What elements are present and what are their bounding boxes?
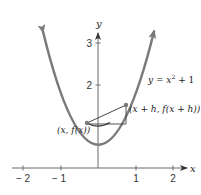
secant-line bbox=[87, 105, 126, 123]
point-label-right: (x + h, f(x + h)) bbox=[129, 104, 201, 114]
x-tick-label: − 2 bbox=[16, 173, 31, 184]
x-tick-label: 2 bbox=[170, 173, 176, 184]
x-tick-label: − 1 bbox=[52, 173, 67, 184]
y-axis-label: y bbox=[95, 18, 102, 29]
y-tick-label: 2 bbox=[86, 80, 92, 91]
y-tick-label: 3 bbox=[86, 38, 92, 49]
point-label-left: (x, f(x)) bbox=[57, 125, 91, 135]
graph-canvas: − 2 − 1 1 2 3 2 x y y = x2 + 1 (x + h, f… bbox=[0, 0, 201, 195]
point-xh-fxh bbox=[124, 103, 128, 107]
function-label: y = x2 + 1 bbox=[147, 73, 194, 85]
x-tick-label: 1 bbox=[133, 173, 139, 184]
x-axis-label: x bbox=[190, 163, 196, 174]
